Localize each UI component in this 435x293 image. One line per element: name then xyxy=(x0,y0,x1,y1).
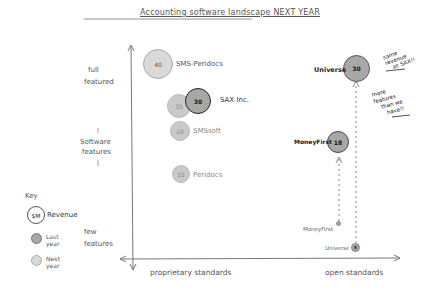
bubble-sax-inc: 30 xyxy=(185,88,211,114)
bubble-smssoft: 20 xyxy=(170,121,190,141)
label-universe-last-year: Universe xyxy=(325,245,349,251)
key-revenue-label: Revenue xyxy=(47,211,78,219)
label-sms-peridocs: SMS-Peridocs xyxy=(176,60,223,68)
y-top-label-1: full xyxy=(88,66,99,74)
label-universe: Universe xyxy=(314,66,346,74)
bubble-moneyfirst-last-year xyxy=(336,221,341,226)
key-last-year-1: Last xyxy=(46,233,59,240)
key-revenue-sample: $M xyxy=(32,212,41,219)
bubble-universe-last-year: 5 xyxy=(351,243,360,252)
label-moneyfirst-last-year: MoneyFirst xyxy=(303,226,333,232)
bubble-value: 5 xyxy=(354,245,357,250)
x-right-label: open standards xyxy=(325,268,383,277)
y-mid-label-2: features xyxy=(82,148,111,156)
key-title: Key xyxy=(25,192,38,200)
key-next-year-bubble xyxy=(31,255,42,266)
bubble-sms-peridocs: 40 xyxy=(143,49,173,79)
key-revenue-bubble: $M xyxy=(27,206,45,224)
bubble-value: 30 xyxy=(352,65,360,72)
key-last-year-bubble xyxy=(31,233,42,244)
key-next-year-2: year xyxy=(46,262,59,269)
label-smssoft: SMSsoft xyxy=(193,127,221,135)
key-last-year-2: year xyxy=(46,240,59,247)
bubble-peridocs: 15 xyxy=(172,165,190,183)
y-top-label-2: featured xyxy=(84,78,114,86)
y-mid-label-1: Software xyxy=(80,138,111,146)
y-bottom-label-2: features xyxy=(84,240,113,248)
label-sax-inc: SAX Inc. xyxy=(220,96,249,104)
bubble-value: 20 xyxy=(176,128,184,135)
label-peridocs: Peridocs xyxy=(193,171,222,179)
key-next-year-1: Next xyxy=(46,255,60,262)
bubble-value: 35 xyxy=(175,103,183,110)
bubble-universe: 30 xyxy=(343,55,370,82)
y-bottom-label-1: few xyxy=(84,228,97,236)
label-moneyfirst: MoneyFirst xyxy=(294,138,332,145)
bubble-value: 40 xyxy=(154,61,162,68)
bubble-value: 15 xyxy=(177,171,185,178)
page-title: Accounting software landscape NEXT YEAR xyxy=(140,8,320,17)
x-left-label: proprietary standards xyxy=(150,268,231,277)
bubble-value: 30 xyxy=(194,98,202,105)
bubble-value: 18 xyxy=(334,139,342,146)
axes-layer xyxy=(0,0,435,293)
